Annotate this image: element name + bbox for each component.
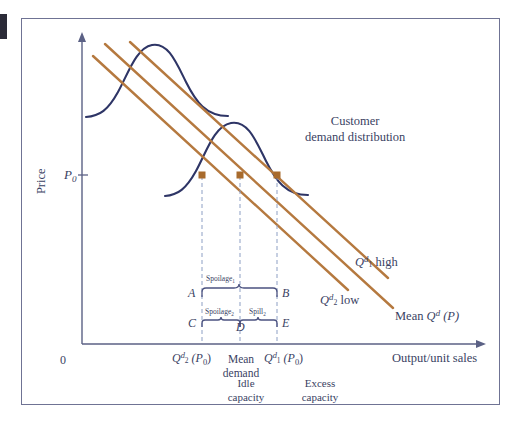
tick-qd1-open: (P xyxy=(281,351,295,365)
x-axis-arrowhead xyxy=(476,340,486,348)
x-tick-label-qd1-p0: Qd1 (P0) xyxy=(264,352,303,367)
excess-line-2: capacity xyxy=(290,391,350,405)
y-tick-label-p0: P0 xyxy=(64,168,77,184)
tick-qd2-open: (P xyxy=(189,351,203,365)
spoilage2-subscript: 2 xyxy=(231,311,234,317)
tick-qd1-q: Q xyxy=(264,351,273,365)
point-label-d: D xyxy=(236,321,245,333)
p0-subscript: 0 xyxy=(72,174,77,184)
marker-mean-demand xyxy=(237,172,244,179)
idle-line-2: capacity xyxy=(223,391,269,405)
x-tick-label-qd2-p0: Qd2 (P0) xyxy=(172,352,211,367)
intersection-markers-group xyxy=(199,172,281,179)
demand-line-mean-qd xyxy=(105,44,393,308)
y-axis-title: Price xyxy=(35,136,48,226)
bracket-label-spoilage2: Spoilage2 xyxy=(205,308,234,317)
origin-label: 0 xyxy=(60,354,66,366)
marker-qd1-p0 xyxy=(274,172,281,179)
annotation-line-1: Customer xyxy=(305,114,405,130)
annotation-line-2: demand distribution xyxy=(305,130,405,146)
spoilage1-subscript: 1 xyxy=(232,278,235,284)
demand-line-label-mean-qd: Mean Qd (P) xyxy=(395,309,459,322)
demand-line-qd2-low xyxy=(93,56,348,290)
bracket-spill2 xyxy=(240,317,277,327)
guide-lines-group xyxy=(202,176,277,344)
demand-line-qd1-high xyxy=(130,42,388,278)
mean-prefix: Mean xyxy=(395,309,427,323)
demand-line-label-qd1-high: Qd1 high xyxy=(355,255,398,269)
spoilage1-text: Spoilage xyxy=(206,274,232,283)
region-label-excess-capacity: Excess capacity xyxy=(290,377,350,405)
point-label-e: E xyxy=(282,317,289,329)
x-axis-title: Output/unit sales xyxy=(392,352,477,365)
marker-qd2-p0 xyxy=(199,172,206,179)
excess-line-1: Excess xyxy=(290,377,350,391)
point-label-b: B xyxy=(282,287,289,299)
tick-qd2-close: ) xyxy=(207,351,211,365)
spill2-subscript: 2 xyxy=(263,311,266,317)
upper-demand-distribution-curve xyxy=(86,45,228,117)
qd1-tail-text: high xyxy=(372,255,397,269)
qd1-q-symbol: Q xyxy=(355,255,364,269)
idle-line-1: Idle xyxy=(223,377,269,391)
bracket-spoilage2 xyxy=(202,317,240,327)
figure-container: Price P0 0 Output/unit sales Customer de… xyxy=(0,0,520,424)
qd2-q-symbol: Q xyxy=(320,293,329,307)
tick-qd2-q: Q xyxy=(172,351,181,365)
bracket-label-spoilage1: Spoilage1 xyxy=(206,275,235,284)
point-label-a: A xyxy=(188,287,195,299)
p0-symbol: P xyxy=(64,167,72,182)
bracket-label-spill2: Spill2 xyxy=(249,308,266,317)
mean-q-symbol: Q xyxy=(427,309,436,323)
qd2-tail-text: low xyxy=(337,293,359,307)
mean-tail-text: (P) xyxy=(440,309,459,323)
demand-line-label-qd2-low: Qd2 low xyxy=(320,293,359,307)
region-label-idle-capacity: Idle capacity xyxy=(223,377,269,405)
spill2-text: Spill xyxy=(249,307,263,316)
axis-group xyxy=(78,32,486,348)
customer-demand-distribution-annotation: Customer demand distribution xyxy=(305,114,405,145)
point-label-c: C xyxy=(188,317,196,329)
tick-qd1-close: ) xyxy=(299,351,303,365)
y-axis-arrowhead xyxy=(78,32,86,42)
spoilage2-text: Spoilage xyxy=(205,307,231,316)
mean-demand-line-1: Mean xyxy=(218,352,264,366)
